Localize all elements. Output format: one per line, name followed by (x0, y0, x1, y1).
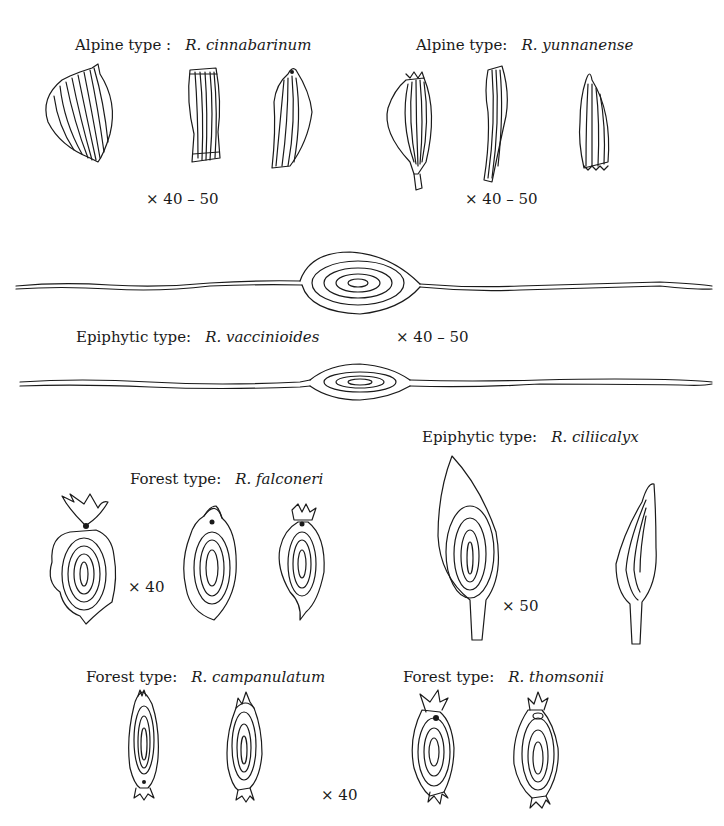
seed-drawings-falconeri (40, 492, 340, 632)
species-name: R. yunnanense (521, 36, 633, 54)
panel-title-thomsonii: Forest type:R. thomsonii (403, 668, 604, 686)
type-label: Forest type: (130, 470, 221, 488)
panel-title-vaccinioides: Epiphytic type:R. vaccinioides (76, 328, 319, 346)
type-label: Epiphytic type: (76, 328, 191, 346)
type-label: Forest type: (86, 668, 177, 686)
panel-title-falconeri: Forest type:R. falconeri (130, 470, 323, 488)
species-name: R. campanulatum (191, 668, 325, 686)
magnification-vaccinioides: × 40 – 50 (396, 328, 469, 346)
magnification-cinnabarinum: × 40 – 50 (146, 190, 219, 208)
species-name: R. thomsonii (508, 668, 604, 686)
magnification-falconeri: × 40 (128, 578, 164, 596)
type-label: Epiphytic type: (422, 428, 537, 446)
magnification-campanulatum: × 40 (321, 786, 357, 804)
magnification-yunnanense: × 40 – 50 (465, 190, 538, 208)
type-label: Forest type: (403, 668, 494, 686)
panel-title-yunnanense: Alpine type:R. yunnanense (416, 36, 633, 54)
panel-title-campanulatum: Forest type:R. campanulatum (86, 668, 325, 686)
seed-drawing-vaccinioides-1 (0, 248, 724, 308)
species-name: R. ciliicalyx (551, 428, 639, 446)
panel-title-ciliicalyx: Epiphytic type:R. ciliicalyx (422, 428, 639, 446)
type-label: Alpine type: (416, 36, 507, 54)
panel-title-cinnabarinum: Alpine type :R. cinnabarinum (75, 36, 312, 54)
seed-drawings-cinnabarinum (40, 62, 360, 182)
type-label: Alpine type : (75, 36, 171, 54)
seed-drawings-ciliicalyx (420, 452, 720, 652)
species-name: R. cinnabarinum (185, 36, 311, 54)
species-name: R. vaccinioides (205, 328, 319, 346)
seed-drawings-campanulatum (120, 688, 320, 808)
seed-drawing-vaccinioides-2 (0, 360, 724, 410)
seed-drawings-thomsonii (400, 688, 600, 808)
species-name: R. falconeri (235, 470, 323, 488)
magnification-ciliicalyx: × 50 (502, 597, 538, 615)
seed-drawings-yunnanense (380, 62, 700, 192)
